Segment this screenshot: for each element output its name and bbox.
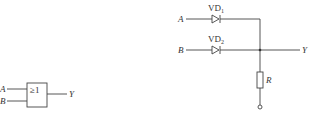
diode-vd1-icon bbox=[212, 15, 219, 23]
diagram-canvas: A B ≥1 Y A B VD1 VD2 R Y bbox=[0, 0, 309, 118]
gate-symbol-text: ≥1 bbox=[30, 85, 39, 95]
gate-label-a: A bbox=[0, 84, 6, 94]
gate-label-b: B bbox=[0, 96, 6, 106]
gate-label-y: Y bbox=[69, 89, 75, 99]
label-vd1: VD1 bbox=[208, 3, 224, 14]
diode-vd2-icon bbox=[212, 46, 219, 54]
circuit-label-a: A bbox=[177, 14, 184, 24]
label-resistor: R bbox=[265, 75, 272, 85]
junction-dot-icon bbox=[259, 49, 262, 52]
label-vd2: VD2 bbox=[208, 34, 224, 45]
resistor-icon bbox=[257, 72, 263, 88]
circuit-label-b: B bbox=[178, 45, 184, 55]
circuit-label-y: Y bbox=[302, 45, 308, 55]
terminal-icon bbox=[258, 105, 262, 109]
diode-or-circuit bbox=[186, 15, 300, 109]
